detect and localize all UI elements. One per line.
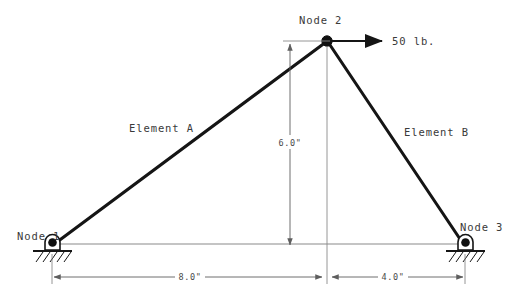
height-dimension-label: 6.0" (279, 138, 302, 148)
node3-support (446, 235, 485, 262)
node3-ground-hatching (449, 252, 484, 262)
node2-label: Node 2 (299, 14, 342, 26)
element-b-label: Element B (404, 126, 469, 138)
span-left-dimension-label: 8.0" (179, 272, 202, 282)
node1-ground-hatching (36, 252, 71, 262)
node3-pin-dot (461, 238, 470, 247)
load-label: 50 lb. (392, 35, 435, 47)
element-a-label: Element A (129, 122, 194, 134)
node3-label: Node 3 (460, 221, 503, 233)
node1-label: Node 1 (17, 230, 60, 242)
truss-canvas: Node 2 50 lb. Element A Element B Node 1… (0, 0, 532, 304)
span-right-dimension-label: 4.0" (382, 272, 405, 282)
member-element-b (328, 42, 464, 245)
truss-diagram: Node 2 50 lb. Element A Element B Node 1… (0, 0, 532, 304)
